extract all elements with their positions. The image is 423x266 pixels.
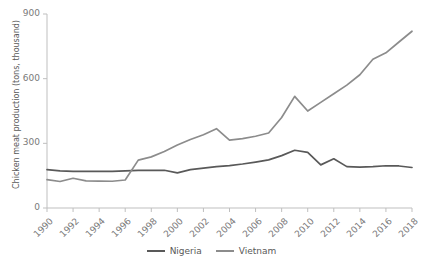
chart-container: Chicken meat production Chicken meat pro… [0, 0, 423, 266]
series-line-vietnam [47, 31, 412, 181]
legend-swatch-icon [147, 250, 165, 252]
legend-item-nigeria[interactable]: Nigeria [147, 246, 202, 256]
y-tick-label: 900 [14, 8, 40, 18]
y-tick-label: 0 [14, 202, 40, 212]
y-tick-label: 300 [14, 137, 40, 147]
legend-label: Nigeria [170, 246, 202, 256]
legend-label: Vietnam [239, 246, 277, 256]
legend-item-vietnam[interactable]: Vietnam [216, 246, 277, 256]
chart-legend: NigeriaVietnam [0, 246, 423, 256]
y-tick-label: 600 [14, 73, 40, 83]
series-line-nigeria [47, 150, 412, 173]
legend-swatch-icon [216, 250, 234, 252]
